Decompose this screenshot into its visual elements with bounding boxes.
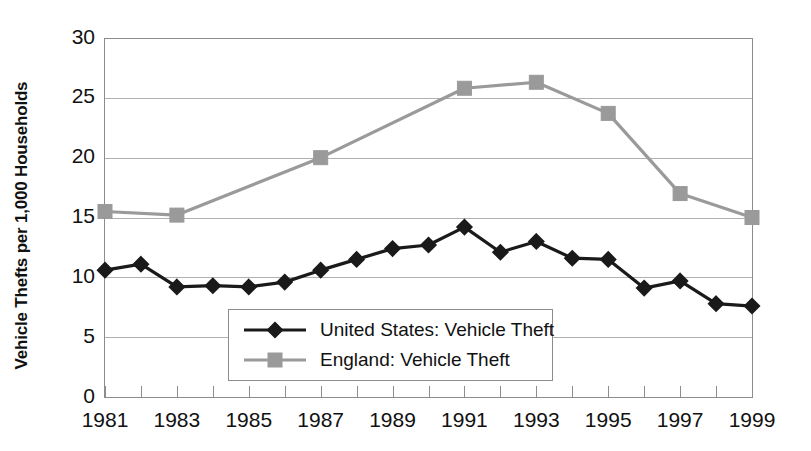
series-line-2 [105, 82, 752, 217]
x-tick-label-1983: 1983 [154, 408, 201, 431]
x-tick-label-1991: 1991 [441, 408, 488, 431]
y-tick-label-20: 20 [72, 144, 95, 167]
y-tick-label-0: 0 [83, 384, 95, 407]
data-point-1-1998 [709, 296, 724, 311]
chart-legend: United States: Vehicle TheftEngland: Veh… [229, 310, 555, 381]
legend-marker-2 [268, 353, 282, 367]
data-point-1-1999 [745, 299, 760, 314]
x-tick-label-1985: 1985 [225, 408, 272, 431]
data-point-1-1985 [241, 279, 256, 294]
legend-label-2: England: Vehicle Theft [320, 349, 511, 370]
x-tick-label-1997: 1997 [657, 408, 704, 431]
data-point-2-1981 [98, 205, 112, 219]
data-point-1-1984 [205, 278, 220, 293]
data-point-1-1994 [565, 251, 580, 266]
series-2 [98, 75, 759, 224]
data-point-2-1995 [601, 106, 615, 120]
y-tick-label-10: 10 [72, 264, 95, 287]
data-point-2-1987 [314, 151, 328, 165]
data-point-1-1983 [169, 279, 184, 294]
y-gridlines [105, 39, 752, 338]
data-point-2-1983 [170, 208, 184, 222]
line-chart: 051015202530 198119831985198719891991199… [0, 0, 811, 451]
data-point-1-1989 [385, 241, 400, 256]
data-point-1-1993 [529, 234, 544, 249]
data-point-1-1990 [421, 238, 436, 253]
x-tick-label-1987: 1987 [297, 408, 344, 431]
y-axis-tick-labels: 051015202530 [72, 25, 95, 407]
y-tick-label-15: 15 [72, 204, 95, 227]
y-tick-label-5: 5 [83, 324, 95, 347]
data-point-1-1988 [349, 252, 364, 267]
x-tick-label-1981: 1981 [82, 408, 129, 431]
data-point-1-1981 [98, 263, 113, 278]
x-axis-tick-labels: 1981198319851987198919911993199519971999 [82, 408, 776, 431]
data-point-1-1982 [133, 257, 148, 272]
chart-figure: Vehicle Thefts per 1,000 Households 0510… [0, 0, 811, 451]
data-point-1-1986 [277, 275, 292, 290]
data-point-2-1999 [745, 211, 759, 225]
x-tick-label-1999: 1999 [729, 408, 776, 431]
data-point-2-1997 [673, 187, 687, 201]
legend-label-1: United States: Vehicle Theft [320, 319, 555, 340]
data-point-1-1997 [673, 273, 688, 288]
data-point-2-1993 [529, 75, 543, 89]
series-1 [98, 220, 760, 314]
data-point-1-1987 [313, 263, 328, 278]
x-tick-label-1995: 1995 [585, 408, 632, 431]
y-tick-label-25: 25 [72, 84, 95, 107]
x-axis-ticks [106, 386, 753, 397]
x-tick-label-1993: 1993 [513, 408, 560, 431]
y-tick-label-30: 30 [72, 25, 95, 48]
data-point-2-1991 [457, 81, 471, 95]
x-tick-label-1989: 1989 [369, 408, 416, 431]
